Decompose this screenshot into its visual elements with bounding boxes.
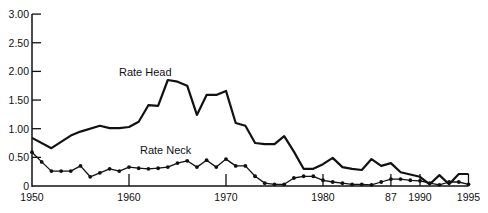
y-tick-label: 1.00 bbox=[9, 123, 30, 135]
x-tick-label: 1970 bbox=[214, 191, 238, 203]
data-point-marker bbox=[360, 182, 364, 186]
data-point-marker bbox=[224, 157, 228, 161]
data-point-marker bbox=[50, 169, 54, 173]
x-tick-label: 1995 bbox=[457, 191, 481, 203]
y-axis: 00.501.001.502.002.503.00 bbox=[9, 8, 41, 192]
y-tick-label: 3.00 bbox=[9, 8, 30, 20]
data-point-marker bbox=[389, 177, 393, 181]
data-point-marker bbox=[79, 164, 83, 168]
data-point-marker bbox=[408, 178, 412, 182]
data-point-marker bbox=[263, 181, 267, 185]
data-point-marker bbox=[185, 159, 189, 163]
data-point-marker bbox=[40, 160, 44, 164]
y-tick-label: 2.50 bbox=[9, 37, 30, 49]
data-point-marker bbox=[117, 169, 121, 173]
data-point-marker bbox=[30, 150, 34, 154]
data-point-marker bbox=[282, 182, 286, 186]
rate-head-label: Rate Head bbox=[119, 66, 172, 78]
data-point-marker bbox=[176, 161, 180, 165]
data-point-marker bbox=[205, 158, 209, 162]
data-point-marker bbox=[321, 178, 325, 182]
data-point-marker bbox=[98, 171, 102, 175]
data-point-marker bbox=[370, 183, 374, 187]
data-point-marker bbox=[147, 167, 151, 171]
data-point-marker bbox=[379, 180, 383, 184]
series-line bbox=[32, 80, 469, 184]
data-point-marker bbox=[302, 174, 306, 178]
data-point-marker bbox=[273, 182, 277, 186]
data-point-marker bbox=[447, 180, 451, 184]
data-point-marker bbox=[127, 165, 131, 169]
y-tick-label: 2.00 bbox=[9, 65, 30, 77]
data-point-marker bbox=[166, 165, 170, 169]
data-point-marker bbox=[234, 164, 238, 168]
data-point-marker bbox=[438, 183, 442, 187]
rate-neck-label: Rate Neck bbox=[140, 144, 192, 156]
data-point-marker bbox=[331, 180, 335, 184]
data-point-marker bbox=[244, 164, 248, 168]
data-point-marker bbox=[88, 175, 92, 179]
data-point-marker bbox=[311, 174, 315, 178]
data-point-marker bbox=[253, 174, 257, 178]
data-point-marker bbox=[457, 180, 461, 184]
data-point-marker bbox=[69, 169, 73, 173]
data-point-marker bbox=[214, 165, 218, 169]
x-tick-label: 87 bbox=[385, 191, 397, 203]
series-line bbox=[32, 152, 469, 185]
data-point-marker bbox=[156, 166, 160, 170]
data-point-marker bbox=[399, 177, 403, 181]
data-point-marker bbox=[59, 169, 63, 173]
series-rate-head bbox=[32, 80, 469, 184]
x-tick-label: 1980 bbox=[311, 191, 335, 203]
data-point-marker bbox=[467, 182, 471, 186]
data-point-marker bbox=[428, 181, 432, 185]
y-tick-label: 0.50 bbox=[9, 151, 30, 163]
data-point-marker bbox=[108, 167, 112, 171]
series-rate-neck bbox=[30, 150, 470, 186]
y-tick-label: 1.50 bbox=[9, 94, 30, 106]
data-point-marker bbox=[341, 181, 345, 185]
x-tick-label: 1950 bbox=[20, 191, 44, 203]
data-point-marker bbox=[137, 166, 141, 170]
x-tick-label: 1960 bbox=[117, 191, 141, 203]
line-chart: 00.501.001.502.002.503.00 19501960197019… bbox=[0, 0, 488, 213]
data-point-marker bbox=[195, 165, 199, 169]
data-point-marker bbox=[292, 176, 296, 180]
x-tick-label: 1990 bbox=[408, 191, 432, 203]
data-point-marker bbox=[350, 182, 354, 186]
data-point-marker bbox=[418, 179, 422, 183]
